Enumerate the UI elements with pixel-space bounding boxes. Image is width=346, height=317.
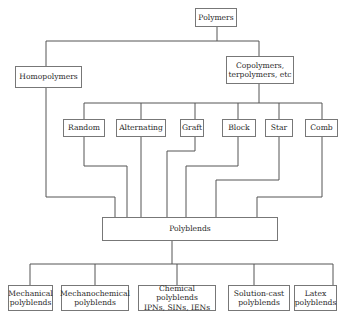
node-star: Star bbox=[265, 119, 293, 137]
node-graft: Graft bbox=[180, 119, 204, 137]
node-latex-polyblends: Latex polyblends bbox=[294, 285, 337, 311]
node-homopolymers: Homopolymers bbox=[15, 66, 82, 88]
node-random: Random bbox=[63, 119, 105, 137]
node-solution-cast-polyblends: Solution-cast polyblends bbox=[228, 285, 290, 311]
node-mechanical-polyblends: Mechanical polyblends bbox=[8, 285, 53, 311]
node-alternating: Alternating bbox=[116, 119, 166, 137]
node-polyblends: Polyblends bbox=[102, 217, 278, 241]
node-mechanochemical-polyblends: Mechanochemical polyblends bbox=[61, 285, 129, 311]
node-comb: Comb bbox=[305, 119, 338, 137]
node-copolymers: Copolymers, terpolymers, etc bbox=[226, 56, 294, 84]
node-block: Block bbox=[222, 119, 256, 137]
connector-lines bbox=[0, 0, 346, 317]
node-polymers: Polymers bbox=[195, 8, 237, 27]
node-chemical-polyblends: Chemical polyblends IPNs, SINs, IENs bbox=[138, 285, 216, 311]
